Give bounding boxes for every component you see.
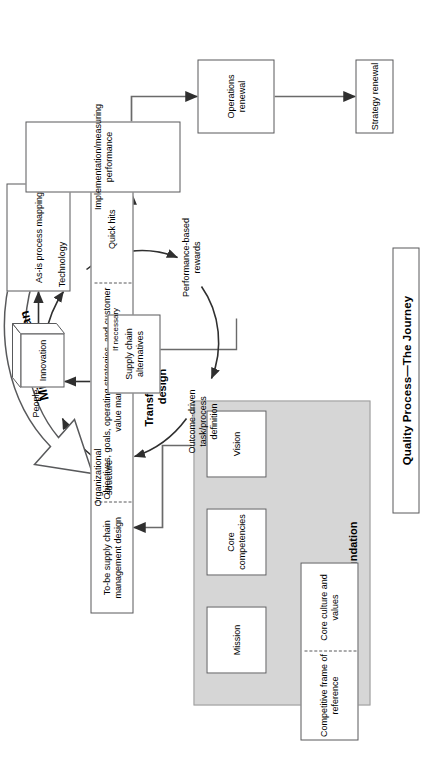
cycle-node-rewards: Performance-based rewards (180, 201, 202, 313)
if-necessary-label: If necessary (110, 292, 120, 366)
core-culture-label: Core culture and values (301, 563, 357, 651)
cycle-node-technology: Technology (56, 227, 67, 301)
strategy-renewal-box: Strategy renewal (355, 59, 393, 133)
operations-renewal-box: Operations renewal (197, 59, 274, 133)
mission-box: Mission (206, 606, 266, 673)
cycle-node-structure: Organizational structure (92, 431, 114, 523)
innovation-label: Innovation (20, 333, 64, 387)
core-competencies-box: Core competencies (206, 508, 266, 575)
cycle-node-outcome: Outcome-driven task/process definition (186, 369, 218, 473)
innovation-cube: Innovation (12, 323, 64, 387)
inputs-divider (304, 650, 356, 651)
competitive-frame-label: Competitive frame of reference (301, 651, 357, 739)
foundation-inputs-box: Competitive frame of reference Core cult… (300, 562, 358, 740)
arrow-implementation-to-operations (131, 96, 197, 121)
page-title: Quality Process—The Journey (392, 247, 419, 513)
diagram-canvas: Quality Process—The Journey Foundation C… (0, 0, 423, 761)
arrow-foundation-to-design (133, 445, 191, 527)
diagram-canvas-rotated: Quality Process—The Journey Foundation C… (0, 0, 423, 761)
implementation-measuring-box: Implementation/measuring performance (25, 121, 180, 192)
band-divider-2 (94, 283, 131, 284)
arrow-cycle-rewards-to-outcome (201, 286, 218, 378)
